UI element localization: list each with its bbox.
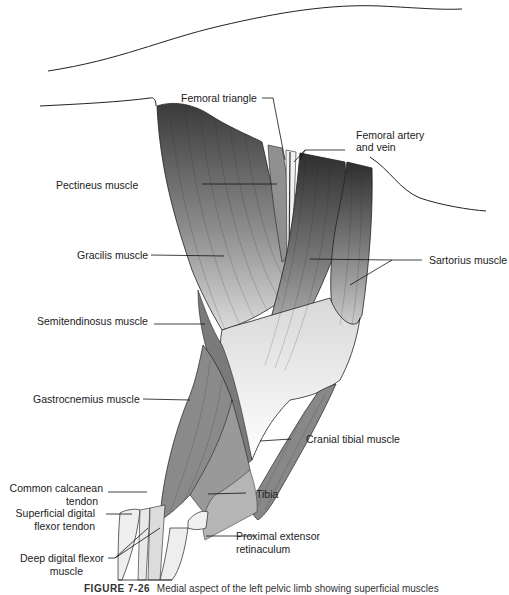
label-common-calcanean-tendon-line1: Common calcanean [5, 482, 103, 495]
label-deep-digital-flexor-line1: Deep digital flexor [0, 552, 104, 565]
caption-number: FIGURE 7-26 [84, 583, 150, 594]
label-superficial-digital-flexor-line1: Superficial digital [5, 507, 95, 520]
label-femoral-triangle: Femoral triangle [181, 92, 257, 105]
label-cranial-tibial-muscle: Cranial tibial muscle [306, 433, 400, 446]
label-proximal-extensor-line1: Proximal extensor [236, 530, 320, 543]
label-gastrocnemius-muscle: Gastrocnemius muscle [33, 393, 140, 406]
tail-outline [40, 98, 156, 106]
figure-caption: FIGURE 7-26 Medial aspect of the left pe… [84, 583, 439, 594]
label-pectineus-muscle: Pectineus muscle [56, 179, 138, 192]
label-femoral-artery-vein-line1: Femoral artery [356, 129, 424, 142]
abdomen-outline [48, 6, 462, 71]
label-proximal-extensor-line2: retinaculum [236, 543, 290, 556]
label-tibia: Tibia [256, 488, 278, 501]
label-superficial-digital-flexor-line2: flexor tendon [5, 520, 95, 533]
label-gracilis-muscle: Gracilis muscle [77, 249, 148, 262]
label-common-calcanean-tendon-line2: tendon [5, 495, 98, 508]
label-sartorius-muscle: Sartorius muscle [429, 254, 507, 267]
gracilis-muscle-shape [157, 103, 290, 330]
flank-outline [370, 157, 486, 211]
lower-limb-tendons [118, 509, 140, 580]
label-deep-digital-flexor-line2: muscle [0, 565, 83, 578]
retinaculum-shape [188, 511, 208, 529]
caption-text: Medial aspect of the left pelvic limb sh… [157, 583, 439, 594]
label-femoral-artery-vein-line2: and vein [356, 141, 396, 154]
label-semitendinosus-muscle: Semitendinosus muscle [37, 315, 148, 328]
